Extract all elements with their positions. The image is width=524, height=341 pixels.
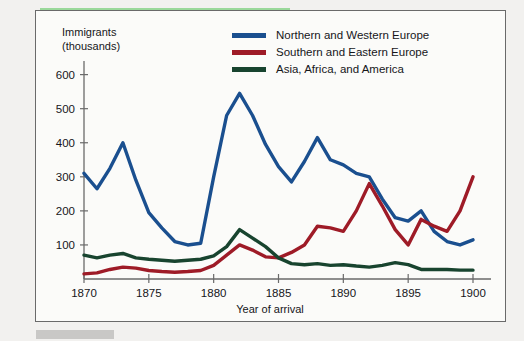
x-tick-label: 1870 <box>71 287 97 299</box>
x-tick-label: 1885 <box>266 287 292 299</box>
x-tick-label: 1900 <box>460 287 486 299</box>
immigration-line-chart: Immigrants (thousands) Year of arrival 1… <box>36 11 504 320</box>
legend-label-2: Asia, Africa, and America <box>276 63 404 75</box>
page-footer-tab <box>36 330 114 339</box>
y-tick-label: 400 <box>56 137 75 149</box>
y-tick-label: 200 <box>56 205 75 217</box>
y-axis-title-line2: (thousands) <box>62 40 120 52</box>
legend-swatch-2 <box>232 67 266 72</box>
series-line-0 <box>84 93 473 245</box>
y-tick-label: 300 <box>56 171 75 183</box>
y-tick-group: 100200300400500600 <box>56 69 88 251</box>
legend-label-1: Southern and Eastern Europe <box>276 46 428 58</box>
legend-swatch-1 <box>232 50 266 55</box>
legend-swatch-0 <box>232 33 266 38</box>
chart-figure-frame: Immigrants (thousands) Year of arrival 1… <box>35 10 506 322</box>
x-tick-label: 1880 <box>201 287 227 299</box>
chart-legend: Northern and Western EuropeSouthern and … <box>232 29 429 75</box>
y-tick-label: 500 <box>56 103 75 115</box>
y-tick-label: 100 <box>56 239 75 251</box>
y-axis-title-line1: Immigrants <box>62 26 117 38</box>
x-tick-label: 1875 <box>136 287 162 299</box>
legend-label-0: Northern and Western Europe <box>276 29 429 41</box>
x-axis-title: Year of arrival <box>236 303 303 315</box>
x-tick-label: 1890 <box>331 287 357 299</box>
x-tick-group: 1870187518801885189018951900 <box>71 274 486 299</box>
series-line-group <box>84 93 473 274</box>
y-tick-label: 600 <box>56 69 75 81</box>
x-tick-label: 1895 <box>395 287 421 299</box>
